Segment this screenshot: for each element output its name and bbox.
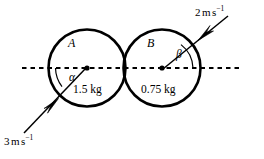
body-a-mass-label: 1.5 kg [73, 84, 102, 96]
velocity-a-unit-metre: m [11, 135, 20, 147]
figure-canvas: A B 1.5 kg 0.75 kg α β 3ms−1 2ms−1 [0, 0, 264, 159]
velocity-vector-a-shaft [24, 68, 86, 133]
body-b-letter: B [147, 37, 154, 49]
body-a-centre-dot [84, 65, 89, 70]
angle-beta-label: β [176, 49, 182, 61]
velocity-vector-a-arrowhead [44, 99, 59, 114]
velocity-b-unit-metre: m [202, 6, 211, 18]
collision-diagram-svg [0, 0, 264, 159]
velocity-a-speed-value: 3 [4, 135, 10, 147]
velocity-b-unit-exponent: −1 [216, 4, 224, 13]
angle-arc-alpha [56, 68, 63, 87]
velocity-vector-b-arrowhead [198, 26, 214, 41]
velocity-a-speed-label: 3ms−1 [4, 136, 33, 147]
velocity-b-speed-value: 2 [195, 6, 201, 18]
velocity-vector-b-shaft [163, 16, 228, 69]
angle-alpha-label: α [69, 72, 75, 84]
velocity-a-unit-exponent: −1 [25, 133, 33, 142]
body-a-letter: A [68, 37, 75, 49]
velocity-b-speed-label: 2ms−1 [195, 7, 224, 18]
body-b-mass-label: 0.75 kg [141, 84, 176, 96]
body-b-centre-dot [159, 65, 164, 70]
angle-arc-beta [181, 45, 193, 68]
